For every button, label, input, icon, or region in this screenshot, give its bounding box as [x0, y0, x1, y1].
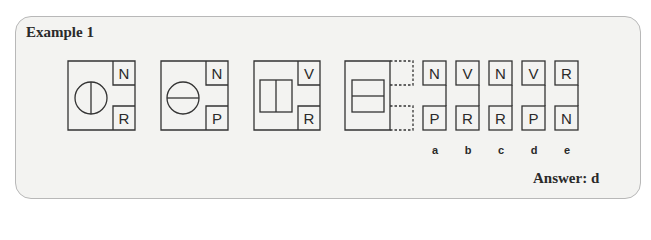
figure-3-top-letter: V: [304, 65, 314, 82]
option-b-label: b: [465, 144, 472, 156]
option-d-label: d: [531, 144, 538, 156]
option-e-bottom-letter: N: [561, 110, 572, 127]
option-e-label: e: [564, 144, 570, 156]
option-c-label: c: [498, 144, 504, 156]
option-a-top-letter: N: [429, 65, 440, 82]
option-d-top-letter: V: [528, 65, 538, 82]
figure-4-missing: [345, 61, 413, 130]
option-a-bottom-letter: P: [429, 110, 439, 127]
option-d-bottom-letter: P: [528, 110, 538, 127]
option-b-bottom-letter: R: [462, 110, 473, 127]
answer-text: Answer: d: [533, 170, 599, 187]
figure-1-bottom-letter: R: [119, 110, 130, 127]
figure-2-top-letter: N: [212, 65, 223, 82]
option-c-top-letter: N: [495, 65, 506, 82]
option-e-top-letter: R: [561, 65, 572, 82]
option-c-bottom-letter: R: [495, 110, 506, 127]
option-b-top-letter: V: [462, 65, 472, 82]
option-a-label: a: [432, 144, 439, 156]
figure-2-bottom-letter: P: [212, 110, 222, 127]
figure-1-top-letter: N: [119, 65, 130, 82]
figure-3-bottom-letter: R: [304, 110, 315, 127]
